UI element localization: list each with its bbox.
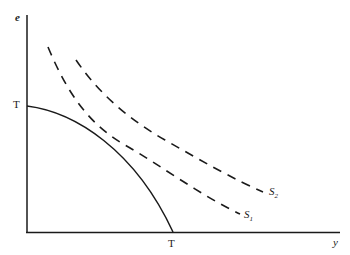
curve-end-label: T xyxy=(168,238,175,249)
vertical-axis-label: e xyxy=(15,12,20,23)
transformation-curve xyxy=(27,106,173,232)
s2-label: S2 xyxy=(269,186,278,200)
s1-label-sub: 1 xyxy=(250,215,254,223)
curve-start-label: T xyxy=(13,99,20,110)
s2-label-sub: 2 xyxy=(275,192,279,200)
horizontal-axis-label: y xyxy=(333,237,338,248)
s1-label: S1 xyxy=(244,209,253,223)
indifference-curve-s1 xyxy=(48,47,240,214)
diagram-canvas xyxy=(0,0,350,255)
